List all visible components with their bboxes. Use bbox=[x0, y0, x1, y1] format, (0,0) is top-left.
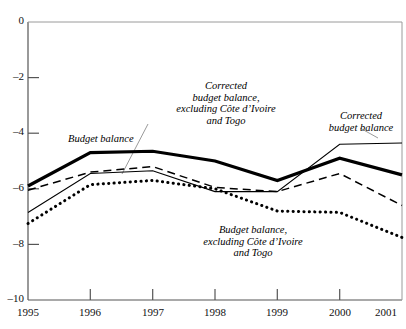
annotation-budget-balance-excluding: Budget balance, excluding Côte d’Ivoire … bbox=[188, 224, 318, 259]
x-tick-label-2000: 2000 bbox=[320, 306, 360, 318]
y-tick-label-minus8: –8 bbox=[0, 237, 24, 249]
annotation-budget-balance: Budget balance bbox=[68, 133, 188, 145]
y-tick-label-minus6: –6 bbox=[0, 181, 24, 193]
chart-plot-area bbox=[0, 0, 406, 329]
y-tick-label-minus4: –4 bbox=[0, 125, 24, 137]
y-tick-label-minus2: –2 bbox=[0, 70, 24, 82]
x-tick-label-1995: 1995 bbox=[8, 306, 48, 318]
chart-figure: 0 –2 –4 –6 –8 –10 1995 1996 1997 1998 19… bbox=[0, 0, 406, 329]
x-axis-ticks bbox=[90, 289, 339, 300]
x-tick-label-1999: 1999 bbox=[257, 306, 297, 318]
series-line-0 bbox=[28, 151, 402, 186]
x-tick-label-1998: 1998 bbox=[195, 306, 235, 318]
y-tick-label-0: 0 bbox=[0, 14, 24, 26]
x-tick-label-1996: 1996 bbox=[70, 306, 110, 318]
series-line-2 bbox=[28, 143, 402, 213]
x-tick-label-1997: 1997 bbox=[133, 306, 173, 318]
annotation-corrected-budget-balance: Corrected budget balance bbox=[318, 110, 404, 133]
y-tick-label-minus10: –10 bbox=[0, 292, 24, 304]
annotation-corrected-budget-balance-excluding: Corrected budget balance, excluding Côte… bbox=[160, 80, 292, 126]
series-line-1 bbox=[28, 167, 402, 206]
x-tick-label-2001: 2001 bbox=[366, 306, 406, 318]
